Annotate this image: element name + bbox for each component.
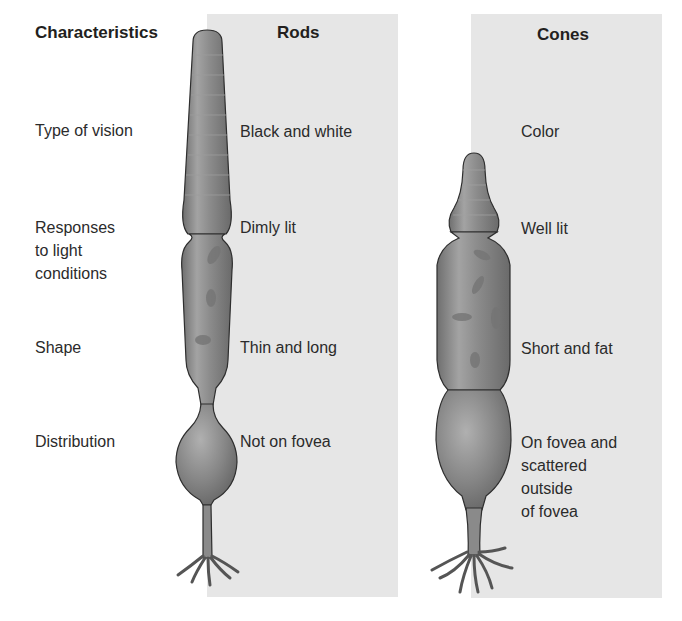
- rods-value: Black and white: [240, 120, 352, 143]
- rods-value: Not on fovea: [240, 430, 331, 453]
- cones-value: On fovea and scattered outside of fovea: [521, 431, 617, 523]
- cones-value: Color: [521, 120, 559, 143]
- cones-value: Well lit: [521, 217, 568, 240]
- rod-cell-icon: [176, 30, 238, 585]
- rods-value: Thin and long: [240, 336, 337, 359]
- characteristic-label: Shape: [35, 336, 81, 359]
- cones-value: Short and fat: [521, 337, 613, 360]
- characteristic-label: Type of vision: [35, 119, 133, 142]
- rods-value: Dimly lit: [240, 216, 296, 239]
- characteristic-label: Distribution: [35, 430, 115, 453]
- cone-cell-icon: [432, 153, 512, 592]
- photoreceptor-illustration: [0, 0, 682, 621]
- characteristic-label: Responses to light conditions: [35, 216, 115, 285]
